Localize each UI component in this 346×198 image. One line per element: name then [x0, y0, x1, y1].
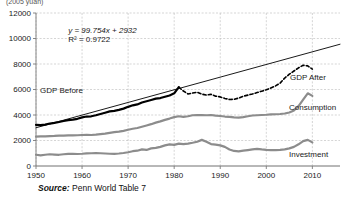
annotation-trend-equation: y = 99.754x + 2932 — [67, 26, 137, 35]
y-tick-label: 2000 — [13, 136, 31, 145]
series-label-gdp-before: GDP Before — [40, 86, 84, 95]
gdp-chart: (2005 yuan)02000400060008000100001200019… — [0, 0, 346, 198]
source-note: Source: Penn World Table 7 — [38, 183, 146, 193]
x-tick-label: 1950 — [27, 171, 45, 180]
y-tick-label: 4000 — [13, 111, 31, 120]
series-label-consumption: Consumption — [289, 103, 336, 112]
y-tick-label: 6000 — [13, 85, 31, 94]
series-label-gdp-after: GDP After — [290, 73, 326, 82]
axis-unit-label: (2005 yuan) — [6, 0, 43, 6]
source-text: Penn World Table 7 — [72, 183, 146, 193]
y-tick-label: 0 — [27, 162, 32, 171]
x-tick-label: 1970 — [119, 171, 137, 180]
x-tick-label: 2000 — [257, 171, 275, 180]
x-tick-label: 2010 — [303, 171, 321, 180]
y-tick-label: 10000 — [9, 34, 32, 43]
y-tick-label: 12000 — [9, 9, 32, 18]
source-prefix: Source: — [38, 183, 70, 193]
series-label-investment: Investment — [289, 150, 329, 159]
y-tick-label: 8000 — [13, 60, 31, 69]
x-tick-label: 1980 — [165, 171, 183, 180]
x-tick-label: 1990 — [211, 171, 229, 180]
x-tick-label: 1960 — [73, 171, 91, 180]
annotation-trend-r2: R² = 0.9722 — [68, 35, 111, 44]
chart-container: (2005 yuan)02000400060008000100001200019… — [0, 0, 346, 198]
